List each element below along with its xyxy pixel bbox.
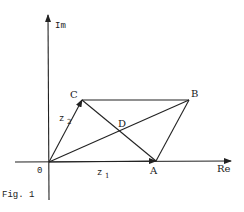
z1-label: z: [97, 168, 102, 178]
point-c-label: C: [70, 89, 78, 100]
vector-z2: [49, 100, 82, 162]
origin-label: 0: [37, 166, 42, 176]
im-axis-label: Im: [55, 21, 66, 31]
point-b-label: B: [191, 88, 198, 99]
point-d-label: D: [118, 118, 126, 129]
segment-ab: [156, 100, 189, 161]
re-axis-label: Re: [217, 163, 231, 174]
imaginary-axis: [48, 15, 49, 200]
z1-subscript: 1: [105, 172, 109, 180]
diagonal-ca: [82, 100, 156, 161]
point-a-label: A: [149, 165, 158, 176]
z2-label: z: [59, 114, 64, 124]
figure-caption: Fig. 1: [2, 190, 34, 200]
z2-subscript: 2: [67, 118, 71, 126]
parallelogram-diagram: Im Re 0 A B C D z 2 z 1 Fig. 1: [0, 0, 244, 212]
